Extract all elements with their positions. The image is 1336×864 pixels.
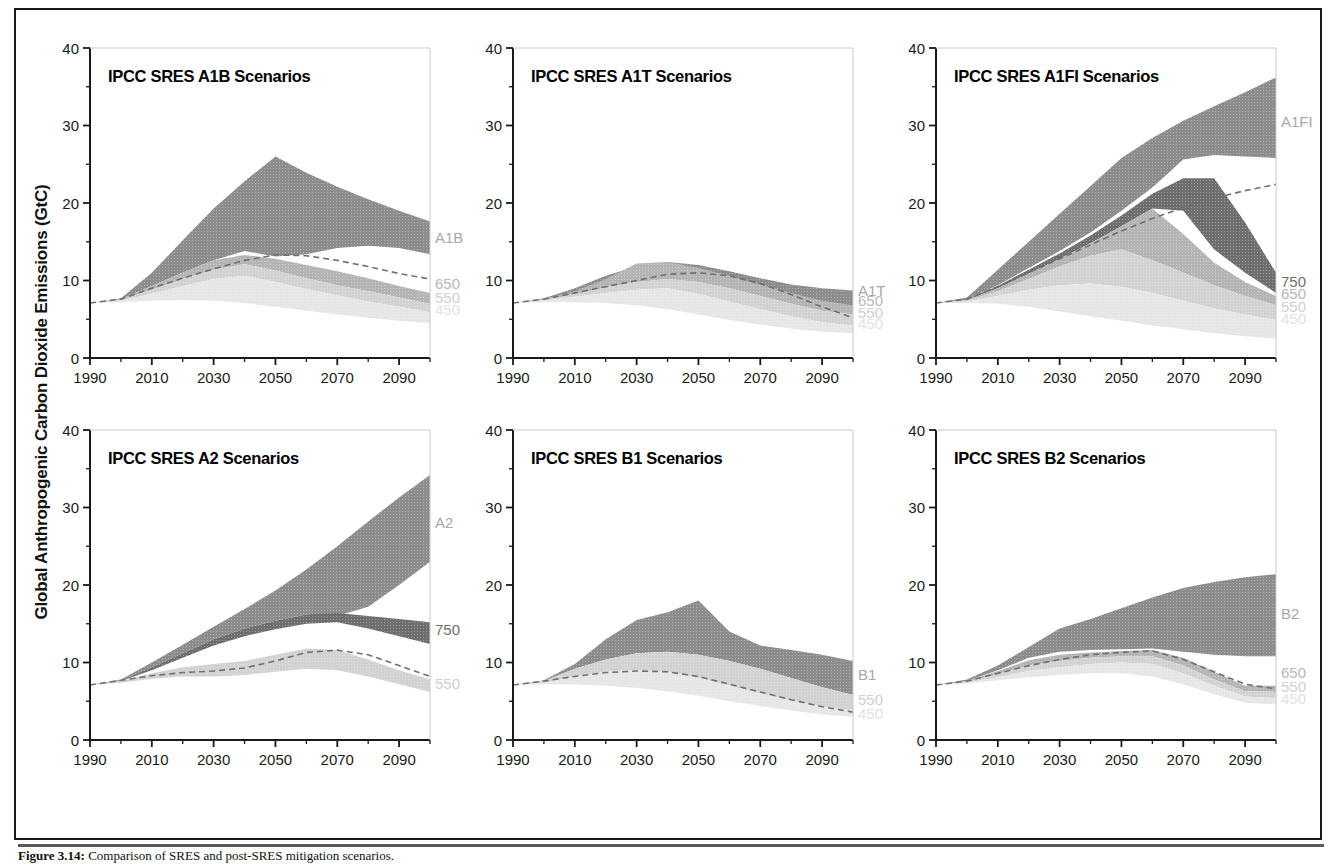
bands — [936, 574, 1276, 704]
edge-label-450: 450 — [1281, 690, 1306, 707]
panel-a1b: 010203040199020102030205020702090IPCC SR… — [42, 36, 492, 398]
x-tick-label: 2050 — [682, 751, 715, 768]
y-tick-label: 20 — [62, 195, 79, 212]
edge-label-b2: B2 — [1281, 605, 1299, 622]
x-tick-label: 2090 — [382, 751, 415, 768]
y-tick-label: 0 — [71, 732, 79, 749]
x-tick-label: 2030 — [1043, 751, 1076, 768]
y-axis: 010203040 — [62, 40, 90, 367]
edge-label-550: 550 — [435, 675, 460, 692]
y-tick-label: 10 — [485, 654, 502, 671]
x-tick-label: 2090 — [805, 369, 838, 386]
x-tick-label: 2070 — [1167, 369, 1200, 386]
edge-label-450: 450 — [435, 301, 460, 318]
x-tick-label: 2010 — [135, 369, 168, 386]
edge-labels: B1550450 — [858, 666, 883, 723]
y-tick-label: 30 — [908, 117, 925, 134]
x-tick-label: 2010 — [135, 751, 168, 768]
edge-label-a2: A2 — [435, 514, 453, 531]
y-tick-label: 40 — [485, 422, 502, 439]
y-tick-label: 10 — [908, 272, 925, 289]
y-tick-label: 0 — [71, 350, 79, 367]
x-tick-label: 1990 — [496, 751, 529, 768]
edge-labels: A1B650550450 — [435, 229, 463, 318]
x-tick-label: 1990 — [919, 751, 952, 768]
y-tick-label: 40 — [485, 40, 502, 57]
x-tick-label: 2090 — [805, 751, 838, 768]
x-tick-label: 2030 — [1043, 369, 1076, 386]
panel-a1t: 010203040199020102030205020702090IPCC SR… — [465, 36, 915, 398]
y-tick-label: 10 — [485, 272, 502, 289]
bands — [90, 475, 430, 692]
x-tick-label: 2090 — [382, 369, 415, 386]
edge-labels: A2750550 — [435, 514, 460, 692]
y-tick-label: 40 — [62, 422, 79, 439]
x-tick-label: 2050 — [259, 751, 292, 768]
edge-label-450: 450 — [858, 315, 883, 332]
x-tick-label: 2050 — [1105, 751, 1138, 768]
x-tick-label: 1990 — [73, 751, 106, 768]
panel-title: IPCC SRES A2 Scenarios — [108, 449, 299, 467]
x-axis: 199020102030205020702090 — [919, 740, 1276, 768]
y-tick-label: 0 — [917, 732, 925, 749]
x-tick-label: 2030 — [620, 751, 653, 768]
edge-label-a1fi: A1FI — [1281, 113, 1313, 130]
panel-a1fi: 010203040199020102030205020702090IPCC SR… — [888, 36, 1336, 398]
y-tick-label: 20 — [908, 195, 925, 212]
figure-caption: Figure 3.14: Comparison of SRES and post… — [18, 848, 1318, 864]
x-tick-label: 2030 — [620, 369, 653, 386]
y-tick-label: 30 — [485, 117, 502, 134]
y-tick-label: 20 — [908, 577, 925, 594]
x-tick-label: 2030 — [197, 751, 230, 768]
x-axis: 199020102030205020702090 — [496, 740, 853, 768]
edge-label-750: 750 — [435, 621, 460, 638]
x-tick-label: 2070 — [321, 751, 354, 768]
y-tick-label: 30 — [908, 499, 925, 516]
y-tick-label: 30 — [62, 117, 79, 134]
x-axis: 199020102030205020702090 — [73, 358, 430, 386]
y-tick-label: 40 — [908, 40, 925, 57]
band-a2 — [90, 475, 430, 685]
x-tick-label: 1990 — [73, 369, 106, 386]
bands — [513, 601, 853, 717]
x-tick-label: 2050 — [259, 369, 292, 386]
y-tick-label: 0 — [917, 350, 925, 367]
x-tick-label: 2070 — [744, 751, 777, 768]
x-tick-label: 2010 — [558, 751, 591, 768]
x-tick-label: 2010 — [981, 369, 1014, 386]
x-axis: 199020102030205020702090 — [496, 358, 853, 386]
panel-title: IPCC SRES B1 Scenarios — [531, 449, 723, 467]
bands — [936, 77, 1276, 338]
y-tick-label: 30 — [485, 499, 502, 516]
edge-label-450: 450 — [858, 705, 883, 722]
x-tick-label: 2050 — [1105, 369, 1138, 386]
x-axis: 199020102030205020702090 — [919, 358, 1276, 386]
y-tick-label: 20 — [62, 577, 79, 594]
bands — [513, 262, 853, 333]
edge-label-b1: B1 — [858, 666, 876, 683]
panel-title: IPCC SRES A1FI Scenarios — [954, 67, 1159, 85]
y-tick-label: 40 — [62, 40, 79, 57]
y-tick-label: 30 — [62, 499, 79, 516]
x-tick-label: 1990 — [919, 369, 952, 386]
panel-title: IPCC SRES B2 Scenarios — [954, 449, 1146, 467]
y-tick-label: 20 — [485, 195, 502, 212]
panel-a2: 010203040199020102030205020702090IPCC SR… — [42, 418, 492, 780]
figure-border-shadow — [18, 844, 1324, 847]
y-tick-label: 10 — [62, 272, 79, 289]
y-axis: 010203040 — [485, 40, 513, 367]
x-tick-label: 2070 — [744, 369, 777, 386]
x-tick-label: 2010 — [558, 369, 591, 386]
x-tick-label: 2030 — [197, 369, 230, 386]
edge-labels: B2650550450 — [1281, 605, 1306, 706]
caption-text: Comparison of SRES and post-SRES mitigat… — [85, 848, 394, 863]
y-tick-label: 0 — [494, 350, 502, 367]
panel-title: IPCC SRES A1B Scenarios — [108, 67, 311, 85]
y-tick-label: 10 — [62, 654, 79, 671]
y-axis: 010203040 — [908, 40, 936, 367]
edge-labels: A1FI750650550450 — [1281, 113, 1313, 328]
y-tick-label: 40 — [908, 422, 925, 439]
bands — [90, 157, 430, 324]
x-tick-label: 2010 — [981, 751, 1014, 768]
